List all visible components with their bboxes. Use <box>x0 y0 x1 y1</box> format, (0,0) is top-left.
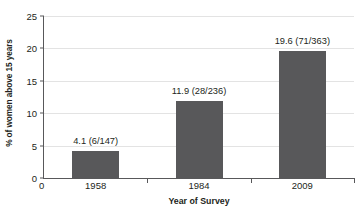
bar-value-label: 11.9 (28/236) <box>172 86 227 96</box>
y-axis-line <box>43 16 44 179</box>
y-axis-tick-label: 25 <box>26 11 37 22</box>
gridline <box>44 48 354 49</box>
x-axis-tick-label: 2009 <box>292 180 313 191</box>
y-axis-tick-label: 5 <box>32 140 37 151</box>
y-axis-tick-label: 20 <box>26 43 37 54</box>
bar-value-label: 4.1 (6/147) <box>73 136 118 146</box>
bar <box>176 101 223 178</box>
y-axis-tick-labels: 0510152025 <box>18 16 40 178</box>
x-axis-title: Year of Survey <box>44 196 354 206</box>
x-axis-origin-label: 0 <box>39 180 44 191</box>
y-axis-title-text: % of women above 15 years <box>4 39 14 147</box>
bar-chart: % of women above 15 years 0510152025 4.1… <box>0 0 362 217</box>
bar <box>72 151 119 178</box>
x-axis-tick-mark <box>354 178 355 183</box>
bar-value-label: 19.6 (71/363) <box>275 36 330 46</box>
bar <box>279 51 326 178</box>
y-axis-tick-label: 10 <box>26 108 37 119</box>
x-axis-tick-label: 1958 <box>85 180 106 191</box>
y-axis-title: % of women above 15 years <box>0 0 18 185</box>
y-axis-tick-label: 15 <box>26 75 37 86</box>
x-axis-tick-labels: 195819842009 <box>44 180 354 196</box>
gridline <box>44 16 354 17</box>
plot-area: 4.1 (6/147)11.9 (28/236)19.6 (71/363) <box>44 16 354 178</box>
y-axis-tick-label: 0 <box>32 173 37 184</box>
x-axis-tick-label: 1984 <box>188 180 209 191</box>
